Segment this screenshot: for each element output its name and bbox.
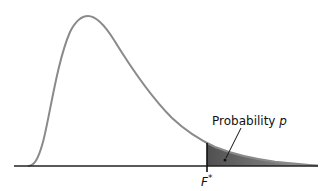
critical-value-label: F* <box>201 173 213 189</box>
f-distribution-chart: Probability p F* <box>0 0 329 191</box>
annotation-pointer-dot <box>224 159 227 162</box>
density-curve <box>28 16 318 166</box>
shaded-tail-region <box>207 143 318 166</box>
probability-label: Probability p <box>212 114 287 128</box>
